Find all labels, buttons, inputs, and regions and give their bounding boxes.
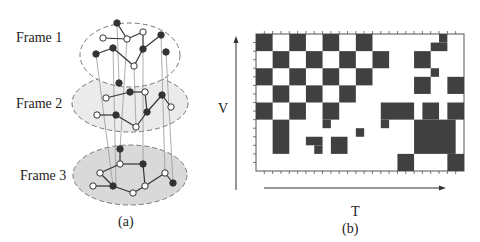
- t-arrowhead-icon: [439, 186, 446, 191]
- filled-cell: [356, 34, 373, 51]
- filled-node: [110, 45, 116, 51]
- filled-node: [140, 46, 146, 52]
- filled-cell: [306, 85, 323, 102]
- filled-cell: [431, 68, 439, 77]
- filled-node: [140, 161, 146, 167]
- filled-cell: [372, 51, 389, 68]
- v-arrowhead-icon: [234, 36, 239, 43]
- filled-cell: [256, 103, 273, 120]
- filled-cell: [331, 137, 348, 154]
- filled-cell: [339, 51, 356, 68]
- frame-2-label: Frame 2: [16, 96, 62, 111]
- filled-node: [144, 109, 150, 115]
- filled-cell: [289, 103, 306, 120]
- filled-cell: [273, 51, 290, 68]
- frame-3-label: Frame 3: [20, 168, 66, 183]
- filled-cell: [289, 68, 306, 85]
- filled-cell: [256, 68, 273, 85]
- filled-cell: [273, 85, 290, 102]
- filled-node: [127, 89, 133, 95]
- filled-cell: [381, 120, 389, 129]
- filled-node: [93, 51, 99, 57]
- t-axis-label: T: [351, 204, 360, 219]
- hollow-node: [90, 183, 96, 189]
- hollow-node: [117, 161, 123, 167]
- v-axis-label: V: [218, 101, 228, 116]
- hollow-node: [162, 170, 168, 176]
- filled-cell: [381, 103, 414, 120]
- hollow-node: [130, 190, 136, 196]
- hollow-node: [131, 63, 137, 69]
- filled-cell: [323, 120, 331, 129]
- filled-cell: [422, 103, 439, 120]
- filled-node: [170, 180, 176, 186]
- filled-cell: [431, 43, 448, 52]
- filled-cell: [323, 34, 340, 51]
- hollow-node: [94, 112, 100, 118]
- filled-cell: [306, 137, 323, 146]
- hollow-node: [124, 36, 130, 42]
- panel-a-graph-frames: [72, 20, 188, 205]
- hollow-node: [97, 170, 103, 176]
- hollow-node: [103, 95, 109, 101]
- filled-cell: [289, 34, 306, 51]
- hollow-node: [100, 35, 106, 41]
- filled-cell: [314, 145, 322, 154]
- filled-cell: [356, 68, 373, 85]
- panel-b-adjacency-grid: [234, 31, 465, 191]
- filled-node: [110, 183, 116, 189]
- hollow-node: [142, 183, 148, 189]
- filled-node: [163, 49, 169, 55]
- filled-cell: [414, 51, 431, 68]
- filled-cell: [323, 68, 340, 85]
- filled-cell: [273, 120, 290, 154]
- filled-cell: [256, 34, 273, 51]
- frame-1-label: Frame 1: [16, 30, 62, 45]
- filled-node: [158, 32, 164, 38]
- hollow-node: [168, 104, 174, 110]
- panel-b-caption: (b): [342, 221, 359, 237]
- panel-a-caption: (a): [118, 214, 134, 230]
- filled-cell: [414, 77, 431, 94]
- filled-node: [116, 80, 122, 86]
- filled-cell: [323, 103, 340, 120]
- filled-cell: [439, 34, 447, 43]
- filled-node: [159, 92, 165, 98]
- filled-cell: [447, 103, 464, 120]
- hollow-node: [133, 124, 139, 130]
- filled-node: [113, 112, 119, 118]
- frame-3-ellipse: [73, 145, 187, 205]
- hollow-node: [140, 29, 146, 35]
- figure: Frame 1 Frame 2 Frame 3 (a) T V (b): [0, 0, 480, 242]
- filled-cell: [414, 120, 456, 154]
- filled-cell: [397, 154, 414, 171]
- filled-cell: [447, 154, 464, 171]
- filled-cell: [306, 51, 323, 68]
- filled-cell: [356, 128, 364, 137]
- filled-cell: [447, 77, 464, 94]
- filled-cell: [339, 85, 356, 102]
- filled-node: [117, 146, 123, 152]
- hollow-node: [142, 89, 148, 95]
- filled-node: [114, 20, 120, 26]
